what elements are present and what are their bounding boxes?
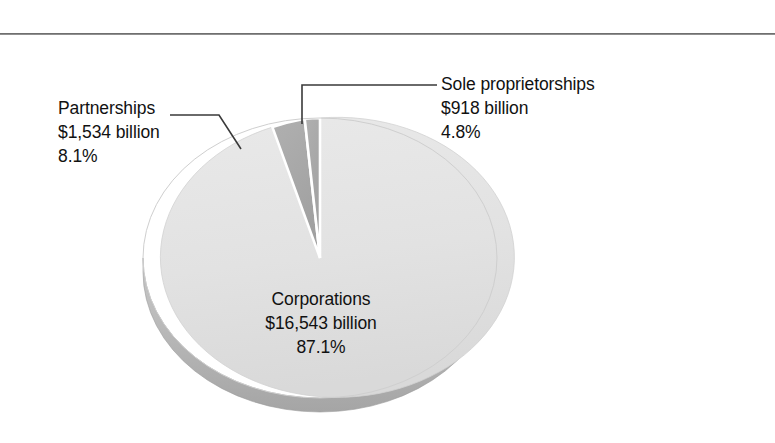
callout-sole-percent: 4.8% — [441, 120, 595, 144]
callout-label-partnerships: Partnerships $1,534 billion 8.1% — [58, 96, 160, 168]
slice-corporations-percent: 87.1% — [203, 335, 439, 359]
callout-sole-value: $918 billion — [441, 96, 595, 120]
slice-corporations-name: Corporations — [203, 287, 439, 311]
pie-chart-figure: Sole proprietorships $918 billion 4.8% P… — [0, 0, 775, 443]
slice-label-corporations: Corporations $16,543 billion 87.1% — [203, 287, 439, 359]
callout-partnerships-percent: 8.1% — [58, 144, 160, 168]
callout-label-sole-proprietorships: Sole proprietorships $918 billion 4.8% — [441, 72, 595, 144]
callout-partnerships-value: $1,534 billion — [58, 120, 160, 144]
leader-line-partnerships — [170, 115, 241, 149]
callout-partnerships-name: Partnerships — [58, 96, 160, 120]
slice-corporations-value: $16,543 billion — [203, 311, 439, 335]
callout-sole-name: Sole proprietorships — [441, 72, 595, 96]
pie-chart-graphic — [0, 0, 775, 443]
